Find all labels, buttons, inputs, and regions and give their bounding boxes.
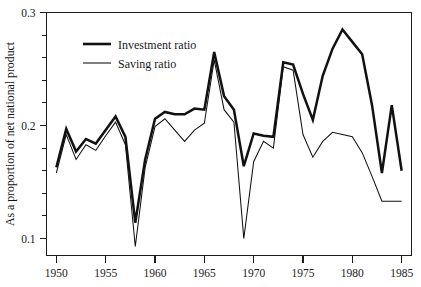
legend-label-0: Investment ratio [118,38,196,52]
chart-legend: Investment ratioSaving ratio [83,38,196,71]
data-series [56,29,401,246]
y-axis-title: As a proportion of net national product [3,41,17,226]
legend-label-1: Saving ratio [118,57,176,71]
axes [40,13,412,263]
x-tick-label: 1965 [193,267,216,279]
x-tick-label: 1950 [45,267,68,279]
x-tick-label: 1970 [242,267,265,279]
y-axis-title-text: As a proportion of net national product [3,41,17,226]
y-tick-label: 0.2 [21,120,36,132]
line-chart: 0.10.20.31950195519601965197019751980198… [0,0,421,287]
series-investment-ratio [56,29,401,222]
x-tick-label: 1985 [390,267,413,279]
x-tick-label: 1975 [291,267,314,279]
chart-figure: 0.10.20.31950195519601965197019751980198… [0,0,421,287]
x-tick-label: 1980 [341,267,364,279]
y-tick-label: 0.3 [21,7,36,19]
x-tick-label: 1955 [94,267,117,279]
x-tick-label: 1960 [144,267,167,279]
y-tick-label: 0.1 [21,233,36,245]
series-saving-ratio [56,60,401,246]
tick-labels: 0.10.20.31950195519601965197019751980198… [21,7,413,279]
